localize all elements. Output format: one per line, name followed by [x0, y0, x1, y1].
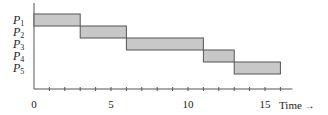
gantt-chart: P1 P2 P3 P4 P5 0 5 10 15 Time →: [0, 0, 328, 115]
bar-p1: [34, 14, 80, 26]
bar-p4: [203, 50, 234, 62]
arrow-right-icon: →: [305, 100, 315, 111]
bar-p3: [126, 38, 203, 50]
bar-p5: [234, 62, 280, 74]
x-axis-label: Time →: [279, 99, 315, 111]
tick-label-10: 10: [183, 98, 194, 110]
label-p5: P5: [13, 63, 24, 77]
tick-label-0: 0: [31, 98, 37, 110]
tick-label-5: 5: [108, 98, 114, 110]
plot-area: [0, 0, 328, 115]
bar-p2: [80, 26, 126, 38]
tick-label-15: 15: [260, 98, 271, 110]
